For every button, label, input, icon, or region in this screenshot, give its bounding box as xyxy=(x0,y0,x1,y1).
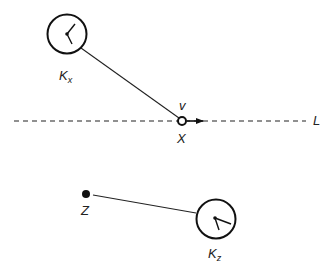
connector-z-kz xyxy=(93,195,196,213)
label-x: X xyxy=(176,131,187,146)
clock-kx-icon xyxy=(48,15,87,54)
label-z: Z xyxy=(80,203,90,218)
point-x xyxy=(178,117,186,125)
label-v: v xyxy=(179,98,187,113)
label-kz: Kz xyxy=(208,246,222,263)
label-l: L xyxy=(313,113,320,128)
connector-kx-x xyxy=(81,48,179,118)
label-kx: Kx xyxy=(59,68,73,85)
diagram-canvas: Kx X v L Z Kz xyxy=(0,0,332,268)
point-z xyxy=(82,190,90,198)
diagram-svg: Kx X v L Z Kz xyxy=(0,0,332,268)
clock-kz-icon xyxy=(197,200,236,239)
